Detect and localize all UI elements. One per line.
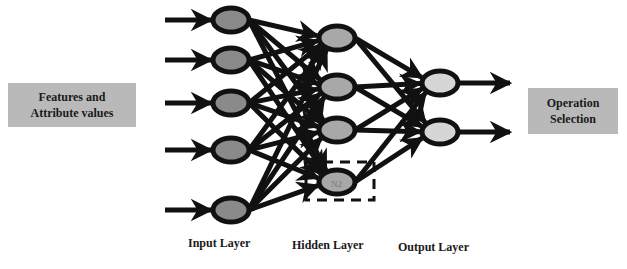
hidden-node-2 (319, 118, 355, 142)
features-line1: Features and (31, 89, 114, 105)
hidden-layer-label: Hidden Layer (292, 238, 364, 253)
output-node-1 (422, 120, 458, 144)
node-label-n2: N2 (331, 179, 342, 189)
operation-line2: Selection (547, 111, 600, 127)
hidden-node-1 (319, 75, 355, 99)
features-line2: Attribute values (31, 105, 114, 121)
edge-h2-o1 (355, 130, 420, 132)
input-node-4 (213, 198, 249, 222)
input-layer-label: Input Layer (188, 236, 250, 251)
edge-h1-o0 (355, 84, 420, 87)
hidden-node-0 (319, 26, 355, 50)
input-node-2 (213, 91, 249, 115)
output-node-0 (422, 71, 458, 95)
edge-h0-o0 (355, 38, 422, 77)
input-node-1 (213, 48, 249, 72)
edge-h3-o1 (355, 138, 422, 182)
operation-box: Operation Selection (528, 88, 618, 134)
output-layer-label: Output Layer (398, 240, 469, 255)
input-node-0 (213, 8, 249, 32)
operation-line1: Operation (547, 95, 600, 111)
input-node-3 (213, 138, 249, 162)
network-graph: N2 (0, 0, 627, 269)
features-box: Features and Attribute values (8, 83, 136, 127)
